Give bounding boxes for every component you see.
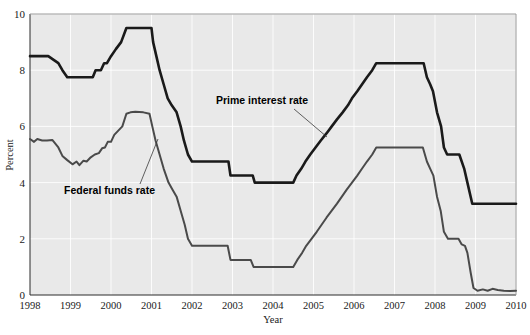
prime-interest-rate-annotation: Prime interest rate [216, 94, 308, 106]
x-tick-label: 2000 [101, 300, 122, 311]
y-tick-label: 4 [20, 177, 26, 189]
y-tick-label: 8 [20, 64, 26, 76]
x-tick-label: 2007 [384, 300, 405, 311]
y-tick-label: 6 [20, 120, 26, 132]
y-tick-label: 2 [20, 233, 26, 245]
x-axis-title: Year [263, 314, 283, 325]
x-tick-label: 2006 [344, 300, 365, 311]
x-tick-label: 2008 [425, 300, 446, 311]
x-tick-label: 2005 [303, 300, 324, 311]
x-tick-label: 1999 [60, 300, 81, 311]
interest-rate-line-chart: 0246810 19981999200020012002200320042005… [0, 0, 530, 335]
x-tick-label: 1998 [20, 300, 41, 311]
federal-funds-rate-annotation: Federal funds rate [64, 184, 155, 196]
y-tick-label: 10 [14, 8, 26, 20]
x-tick-label: 2010 [506, 300, 527, 311]
y-axis-title: Percent [4, 139, 15, 171]
x-tick-label: 2003 [222, 300, 243, 311]
x-tick-label: 2004 [263, 300, 285, 311]
x-tick-label: 2009 [465, 300, 486, 311]
x-tick-label: 2002 [182, 300, 203, 311]
chart-container: 0246810 19981999200020012002200320042005… [0, 0, 530, 335]
x-tick-label: 2001 [141, 300, 162, 311]
